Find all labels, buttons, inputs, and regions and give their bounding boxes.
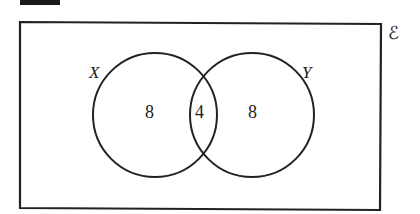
intersection-count: 4	[195, 102, 204, 123]
y-only-count: 8	[248, 102, 257, 123]
set-x-label: X	[89, 63, 99, 83]
set-y-label: Y	[302, 63, 311, 83]
universal-set-label: ℰ	[388, 22, 399, 44]
venn-diagram	[0, 0, 420, 214]
x-only-count: 8	[145, 102, 154, 123]
